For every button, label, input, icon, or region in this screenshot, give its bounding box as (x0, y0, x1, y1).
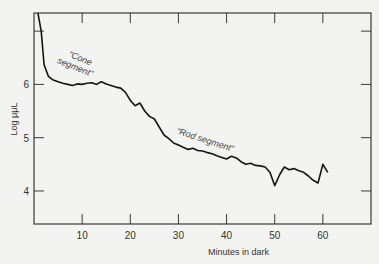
cone-segment-label: “Conesegment” (56, 46, 99, 79)
y-axis-label: Log μμL (9, 103, 19, 136)
plot-frame (34, 13, 371, 224)
threshold-curve (38, 13, 328, 186)
x-tick-label: 10 (77, 230, 89, 241)
x-tick-label: 50 (269, 230, 281, 241)
rod-segment-label: “Rod segment” (175, 126, 236, 154)
x-tick-label: 30 (173, 230, 185, 241)
x-tick-label: 20 (125, 230, 137, 241)
x-axis-label: Minutes in dark (208, 247, 270, 257)
y-tick-label: 4 (23, 186, 29, 197)
x-tick-label: 40 (221, 230, 233, 241)
y-tick-label: 6 (23, 79, 29, 90)
y-tick-label: 5 (23, 133, 29, 144)
dark-adaptation-chart: 102030405060456Minutes in darkLog μμL“Co… (0, 0, 379, 264)
x-tick-label: 60 (317, 230, 329, 241)
